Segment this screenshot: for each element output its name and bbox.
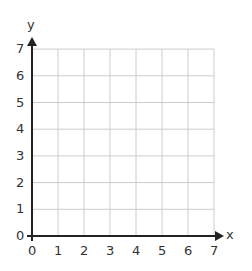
y-axis-arrow-icon: [27, 37, 37, 46]
y-tick-label: 4: [16, 122, 24, 135]
y-tick-label: 1: [16, 202, 24, 215]
x-tick-label: 3: [106, 244, 114, 257]
y-tick-label: 2: [16, 176, 24, 189]
x-tick-label: 4: [132, 244, 140, 257]
coordinate-grid: x y 01234567 01234567: [0, 0, 252, 271]
x-axis-label: x: [226, 228, 234, 241]
x-tick-label: 1: [54, 244, 62, 257]
y-tick-label: 7: [16, 42, 24, 55]
y-tick-label: 5: [16, 96, 24, 109]
x-tick-label: 2: [80, 244, 88, 257]
y-axis-label: y: [27, 18, 35, 31]
y-tick-label: 0: [16, 229, 24, 242]
x-tick-label: 0: [28, 244, 36, 257]
y-tick-label: 3: [16, 149, 24, 162]
grid-svg: [0, 0, 252, 271]
x-tick-label: 6: [184, 244, 192, 257]
x-tick-label: 7: [210, 244, 218, 257]
gridlines: [32, 49, 214, 236]
x-axis-arrow-icon: [215, 231, 224, 241]
y-tick-label: 6: [16, 69, 24, 82]
x-tick-label: 5: [158, 244, 166, 257]
